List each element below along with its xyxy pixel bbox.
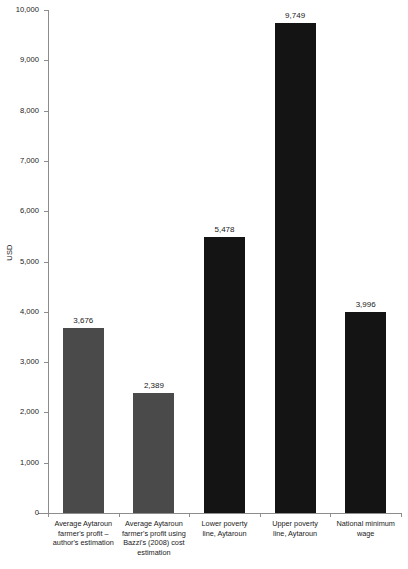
category-label-line: farmer's profit using — [121, 529, 188, 539]
y-axis-tick-label: 7,000 — [20, 156, 39, 165]
category-label-line: Upper poverty — [262, 519, 329, 529]
category-label-line: farmer's profit – — [50, 529, 117, 539]
y-axis-tick-label: 6,000 — [20, 206, 39, 215]
x-axis-category-label: Average Aytarounfarmer's profit usingBaz… — [121, 519, 188, 557]
x-axis-tick-mark — [189, 513, 190, 517]
y-axis-tick-label: 4,000 — [20, 307, 39, 316]
y-axis-tick-label: 5,000 — [20, 257, 39, 266]
x-axis-tick-mark — [330, 513, 331, 517]
bar: 9,749 — [275, 23, 316, 513]
y-axis-tick-mark — [44, 362, 48, 363]
y-axis-tick-label: 9,000 — [20, 55, 39, 64]
bar: 3,676 — [63, 328, 104, 513]
y-axis-tick-label: 1,000 — [20, 458, 39, 467]
category-label-line: Bazzi's (2008) cost — [121, 538, 188, 548]
y-axis-tick-mark — [44, 412, 48, 413]
bar: 5,478 — [204, 237, 245, 513]
bar-chart: USD 10,0009,0008,0007,0006,0005,0004,000… — [0, 0, 408, 569]
category-label-line: author's estimation — [50, 538, 117, 548]
x-axis-tick-mark — [119, 513, 120, 517]
y-axis-tick-mark — [44, 10, 48, 11]
y-axis-tick-mark — [44, 111, 48, 112]
category-label-line: line, Aytaroun — [191, 529, 258, 539]
y-axis-tick-mark — [44, 463, 48, 464]
y-axis-tick-label: 0 — [35, 508, 39, 517]
y-axis-title: USD — [5, 233, 14, 273]
y-axis-tick-label: 3,000 — [20, 357, 39, 366]
y-axis-tick-mark — [44, 60, 48, 61]
x-axis-tick-mark — [401, 513, 402, 517]
category-label-line: Average Aytaroun — [50, 519, 117, 529]
x-axis-tick-mark — [260, 513, 261, 517]
bar-value-label: 3,996 — [356, 300, 376, 309]
category-label-line: wage — [332, 529, 399, 539]
category-label-line: line, Aytaroun — [262, 529, 329, 539]
category-label-line: Average Aytaroun — [121, 519, 188, 529]
y-axis-tick-mark — [44, 312, 48, 313]
x-axis-category-label: Average Aytarounfarmer's profit –author'… — [50, 519, 117, 548]
category-label-line: estimation — [121, 548, 188, 558]
bar-value-label: 3,676 — [73, 316, 93, 325]
bar: 3,996 — [345, 312, 386, 513]
y-axis-tick-label: 2,000 — [20, 407, 39, 416]
category-label-line: Lower poverty — [191, 519, 258, 529]
y-axis-tick-label: 8,000 — [20, 106, 39, 115]
bar-value-label: 5,478 — [214, 225, 234, 234]
bar-value-label: 9,749 — [285, 11, 305, 20]
y-axis-tick-label: 10,000 — [16, 5, 39, 14]
y-axis-tick-mark — [44, 211, 48, 212]
x-axis-line — [38, 513, 401, 514]
category-label-line: National minimum — [332, 519, 399, 529]
bar: 2,389 — [133, 393, 174, 513]
x-axis-category-label: Upper povertyline, Aytaroun — [262, 519, 329, 538]
x-axis-category-label: Lower povertyline, Aytaroun — [191, 519, 258, 538]
y-axis-tick-mark — [44, 161, 48, 162]
x-axis-category-label: National minimumwage — [332, 519, 399, 538]
x-axis-tick-mark — [48, 513, 49, 517]
y-axis-tick-mark — [44, 262, 48, 263]
y-axis-line — [48, 10, 49, 513]
bar-value-label: 2,389 — [144, 381, 164, 390]
